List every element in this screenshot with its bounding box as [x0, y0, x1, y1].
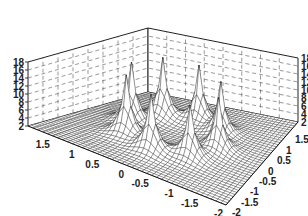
y-tick-label: -0.5: [132, 178, 150, 189]
x-tick-label: 1: [286, 145, 292, 156]
z-axis-labels-right: 24681012141618: [301, 53, 308, 128]
z-tick-label: 18: [13, 57, 25, 68]
y-tick-label: 1: [69, 149, 75, 160]
y-tick-label: 0.5: [85, 159, 99, 170]
x-tick-label: 0: [268, 166, 274, 177]
y-tick-label: -1: [165, 188, 174, 199]
x-tick-label: -1.5: [241, 197, 259, 208]
y-tick-label: -1.5: [181, 198, 199, 209]
x-tick-label: 0.5: [277, 155, 291, 166]
x-tick-label: -2: [232, 207, 241, 216]
x-tick-label: -0.5: [259, 176, 277, 187]
z-tick-label-right: 18: [301, 53, 308, 64]
y-tick-label: -2: [214, 208, 223, 216]
z-axis-labels-left: 24681012141618: [13, 57, 28, 132]
x-tick-label: 1.5: [295, 134, 308, 145]
y-tick-label: 0: [118, 169, 124, 180]
x-tick-label: -1: [250, 186, 259, 197]
surface-plot: 24681012141618 24681012141618 -2-1.5-1-0…: [0, 0, 308, 216]
y-tick-label: 1.5: [36, 139, 50, 150]
